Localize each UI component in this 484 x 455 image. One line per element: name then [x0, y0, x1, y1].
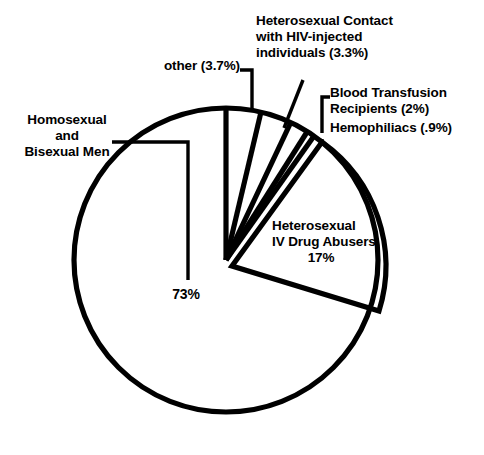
label-blood-transfusion-line2: Recipients (2%) [330, 101, 484, 117]
leader-line-hetero-contact [284, 80, 303, 128]
label-other: other (3.7%) [144, 58, 240, 74]
label-heterosexual-contact: Heterosexual Contact with HIV-injected i… [256, 13, 406, 61]
pie-chart-figure: other (3.7%) Heterosexual Contact with H… [0, 0, 484, 455]
label-blood-transfusion-line1: Blood Transfusion [330, 85, 484, 101]
label-homosexual-bisexual-men: Homosexual and Bisexual Men [8, 112, 126, 160]
label-hemophiliacs: Hemophiliacs (.9%) [330, 120, 484, 136]
label-homosexual-line2: and [8, 128, 126, 144]
leader-line-homosexual-bisexual [112, 142, 188, 280]
label-heterosexual-contact-line3: individuals (3.3%) [256, 45, 406, 61]
value-homosexual-bisexual-men: 73% [160, 286, 212, 303]
label-heterosexual-contact-line2: with HIV-injected [256, 29, 406, 45]
label-other-text: other (3.7%) [164, 58, 240, 73]
pie-chart-graphic [0, 0, 484, 455]
label-blood-transfusion-recipients: Blood Transfusion Recipients (2%) [330, 85, 484, 117]
label-homosexual-line1: Homosexual [8, 112, 126, 128]
label-hemophiliacs-text: Hemophiliacs (.9%) [330, 120, 452, 135]
label-homosexual-line3: Bisexual Men [8, 144, 126, 160]
label-iv-drug-abusers: Heterosexual IV Drug Abusers 17% [272, 218, 384, 266]
leader-line-blood-hemophiliacs [322, 97, 330, 133]
value-iv-drug-abusers: 17% [272, 250, 384, 266]
label-iv-drug-abusers-line2: IV Drug Abusers [272, 234, 384, 250]
label-iv-drug-abusers-line1: Heterosexual [272, 218, 384, 234]
leader-line-other [240, 70, 252, 112]
label-heterosexual-contact-line1: Heterosexual Contact [256, 13, 406, 29]
